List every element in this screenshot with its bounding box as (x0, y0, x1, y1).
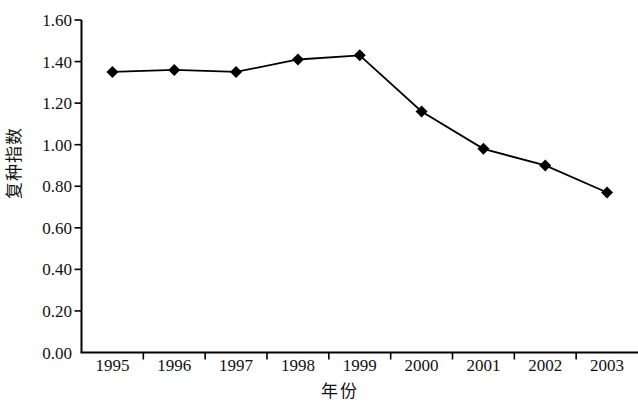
x-axis-title: 年份 (0, 377, 638, 402)
data-point-marker (168, 64, 180, 76)
data-point-marker (106, 66, 118, 78)
data-point-marker (230, 66, 242, 78)
x-axis-tick-label: 1997 (205, 355, 267, 377)
x-axis-tick-label: 1998 (267, 355, 329, 377)
x-axis-tick-label: 1999 (329, 355, 391, 377)
data-point-marker (292, 53, 304, 65)
x-axis-tick-label: 2000 (391, 355, 453, 377)
data-series-line (112, 55, 607, 192)
x-axis-tick-label: 2001 (452, 355, 514, 377)
data-point-marker (477, 143, 489, 155)
data-point-marker (601, 186, 613, 198)
x-axis-tick-label: 1995 (81, 355, 143, 377)
x-axis-tick-label: 1996 (143, 355, 205, 377)
data-point-markers (106, 49, 613, 198)
plot-area (0, 0, 638, 403)
x-axis-tick-label: 2002 (514, 355, 576, 377)
composite-cropping-index-line-chart: 复种指数 0.000.200.400.600.801.001.201.401.6… (0, 0, 638, 403)
x-axis-tick-label: 2003 (576, 355, 638, 377)
y-axis-ticks (75, 20, 82, 311)
data-point-marker (539, 159, 551, 171)
